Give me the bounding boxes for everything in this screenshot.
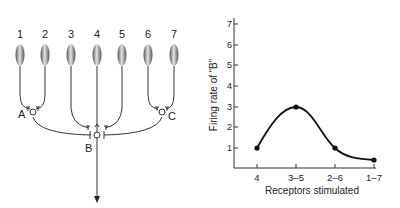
x-tick-0: 4 xyxy=(254,172,259,183)
x-tick-3: 1–7 xyxy=(366,172,382,183)
firing-rate-curve xyxy=(257,107,374,160)
y-tick-3: 3 xyxy=(227,102,232,112)
x-tick-2: 2–6 xyxy=(327,172,343,183)
y-tick-6: 6 xyxy=(227,40,232,50)
data-point xyxy=(254,145,259,150)
y-tick-1: 1 xyxy=(227,143,232,153)
x-tick-1: 3–5 xyxy=(288,172,304,183)
data-point xyxy=(332,145,337,150)
x-tick-labels: 4 3–5 2–6 1–7 xyxy=(254,172,382,183)
y-tick-5: 5 xyxy=(227,60,232,70)
figure: 1 2 3 4 5 6 7 xyxy=(0,0,400,208)
y-axis-label: Firing rate of “B” xyxy=(208,59,219,131)
y-tick-labels: 7 6 5 4 3 2 1 xyxy=(227,19,232,153)
data-point xyxy=(293,104,298,109)
chart-axes xyxy=(234,18,376,168)
y-tick-7: 7 xyxy=(227,19,232,29)
y-tick-4: 4 xyxy=(227,81,232,91)
y-tick-2: 2 xyxy=(227,122,232,132)
data-point xyxy=(371,157,376,162)
data-points xyxy=(254,104,376,162)
x-axis-label: Receptors stimulated xyxy=(265,185,359,196)
firing-rate-chart: 7 6 5 4 3 2 1 4 3–5 2–6 1–7 Receptors st… xyxy=(0,0,400,208)
